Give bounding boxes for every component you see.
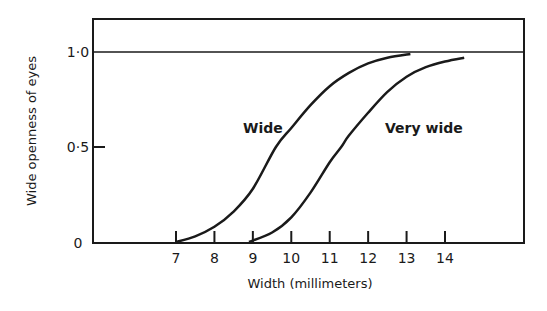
x-tick-label-10: 10	[282, 250, 300, 266]
curve-label-very-wide: Very wide	[385, 120, 463, 136]
curve-very-wide	[249, 58, 464, 242]
x-axis-tick-labels: 7891011121314	[172, 250, 454, 266]
x-tick-label-12: 12	[359, 250, 377, 266]
x-tick-label-14: 14	[436, 250, 454, 266]
curve-label-wide: Wide	[243, 120, 283, 136]
x-tick-label-9: 9	[248, 250, 257, 266]
x-tick-label-7: 7	[172, 250, 181, 266]
x-tick-label-8: 8	[210, 250, 219, 266]
sigmoid-line-chart: 7891011121314 1·0 0·5 0 Wide openness of…	[0, 0, 547, 311]
y-axis-title: Wide openness of eyes	[24, 56, 39, 206]
x-tick-label-11: 11	[321, 250, 339, 266]
x-axis-title: Width (millimeters)	[247, 276, 372, 291]
y-tick-label-0-5: 0·5	[67, 139, 89, 155]
x-tick-label-13: 13	[398, 250, 416, 266]
x-axis-ticks	[176, 231, 445, 243]
y-tick-label-1-0: 1·0	[67, 44, 89, 60]
y-tick-label-0: 0	[74, 235, 83, 251]
